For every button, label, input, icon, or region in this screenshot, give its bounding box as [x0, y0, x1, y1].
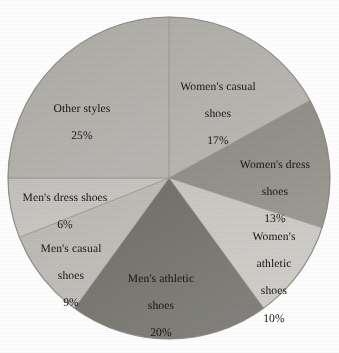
pie-chart-canvas — [0, 0, 339, 353]
pie-chart: Women's casual shoes 17% Women's dress s… — [0, 0, 339, 353]
pie-slice-other-styles — [8, 17, 169, 178]
